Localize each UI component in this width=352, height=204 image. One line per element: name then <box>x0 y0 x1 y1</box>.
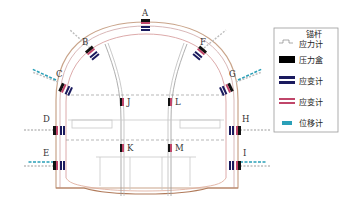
interior-structure <box>68 120 224 190</box>
legend: 锚杆 应力计 压力盒 应变计 应变计 位移计 <box>274 28 338 132</box>
gauge-D <box>53 126 65 135</box>
outer-lining-2 <box>60 26 234 188</box>
gauge-A <box>141 19 150 31</box>
label-M: M <box>175 143 184 153</box>
anchor-rods <box>24 30 270 166</box>
label-E: E <box>43 148 49 158</box>
inner-lining <box>66 34 226 178</box>
label-G: G <box>229 69 236 79</box>
displacement-meters <box>28 69 266 162</box>
gauge-M <box>168 144 172 152</box>
label-L: L <box>175 97 181 107</box>
tunnel-cross-section-diagram: A B C D E F G H I J K L M 锚杆 应力计 压力盒 应变计 <box>0 0 352 204</box>
displacement-meter-icon <box>282 121 292 125</box>
label-A: A <box>141 8 149 18</box>
gauge-K <box>120 144 124 152</box>
gauge-G <box>219 83 234 96</box>
label-H: H <box>242 114 249 124</box>
label-I: I <box>243 148 246 158</box>
right-column-2 <box>168 43 184 196</box>
gauge-J <box>120 98 124 106</box>
gauge-I <box>229 161 241 170</box>
label-J: J <box>126 97 131 107</box>
svg-text:位移计: 位移计 <box>299 118 323 128</box>
svg-text:应变计: 应变计 <box>299 97 323 107</box>
label-B: B <box>82 37 88 47</box>
svg-text:应变计: 应变计 <box>299 76 323 86</box>
gauge-B <box>85 46 100 61</box>
gauge-L <box>168 98 172 106</box>
svg-text:压力盒: 压力盒 <box>299 55 323 65</box>
gauge-E <box>53 161 65 170</box>
label-F: F <box>200 37 206 47</box>
label-C: C <box>56 69 63 79</box>
svg-text:锚杆: 锚杆 <box>306 29 322 39</box>
label-D: D <box>43 114 50 124</box>
left-column-2 <box>108 43 124 196</box>
gauge-H <box>229 126 241 135</box>
label-K: K <box>127 143 134 153</box>
svg-text:应力计: 应力计 <box>299 39 323 49</box>
pressure-cell-icon <box>279 56 295 63</box>
